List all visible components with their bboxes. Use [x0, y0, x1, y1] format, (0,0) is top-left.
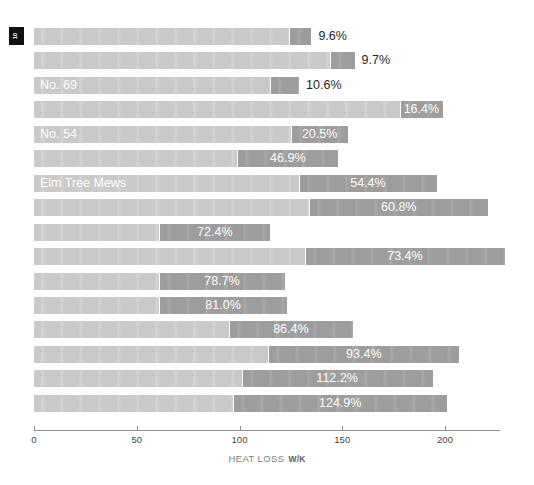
bar-segment-base	[34, 52, 330, 69]
bar-row[interactable]: 78.7%	[0, 273, 534, 290]
bar-row[interactable]: 9.6%	[0, 28, 534, 45]
x-axis-tick-mark	[445, 426, 446, 431]
x-axis-title-text: HEAT LOSS	[228, 453, 284, 464]
x-axis-tick-label: 100	[232, 434, 248, 445]
bar-row[interactable]: 73.4%	[0, 248, 534, 265]
bar-value-label: 81.0%	[159, 297, 286, 314]
x-axis-tick-mark	[137, 426, 138, 431]
bar-value-label: 72.4%	[159, 224, 270, 241]
x-axis-tick-label: 50	[131, 434, 142, 445]
bar-segment-base	[34, 346, 268, 363]
bar-value-label: 20.5%	[291, 126, 349, 143]
bar-segment-base	[34, 248, 305, 265]
bar-value-label: 54.4%	[299, 175, 437, 192]
bar-segment-extension	[271, 77, 299, 94]
bar-value-label: 112.2%	[242, 370, 433, 387]
chart-plot-area: 9.6%9.7%No. 6910.6%16.4%No. 5420.5%46.9%…	[0, 24, 534, 424]
bar-row[interactable]: No. 5420.5%	[0, 126, 534, 143]
bar-segment-extension	[331, 52, 355, 69]
x-axis-tick-mark	[342, 426, 343, 431]
bar-segment-base	[34, 395, 233, 412]
bar-value-label: 10.6%	[306, 77, 341, 94]
bar-segment-base	[34, 28, 289, 45]
bar-segment-base	[34, 199, 309, 216]
bar-value-label: 93.4%	[268, 346, 459, 363]
bar-value-label: 73.4%	[305, 248, 504, 265]
x-axis-title: HEAT LOSSW/K	[0, 453, 534, 464]
bar-segment-base	[34, 370, 242, 387]
bar-segment-base	[34, 101, 400, 118]
bar-row[interactable]: No. 6910.6%	[0, 77, 534, 94]
bar-row[interactable]: 46.9%	[0, 150, 534, 167]
x-axis-units: W/K	[288, 454, 305, 464]
bar-value-label: 124.9%	[233, 395, 447, 412]
bar-row[interactable]: 72.4%	[0, 224, 534, 241]
bar-value-label: 60.8%	[309, 199, 488, 216]
x-axis-tick-label: 200	[437, 434, 453, 445]
x-axis-tick-mark	[34, 426, 35, 431]
bar-segment-base	[34, 126, 291, 143]
bar-segment-base	[34, 175, 299, 192]
bar-row[interactable]: 124.9%	[0, 395, 534, 412]
bar-row[interactable]: Elm Tree Mews54.4%	[0, 175, 534, 192]
bar-segment-base	[34, 321, 229, 338]
x-axis-tick-label: 0	[31, 434, 36, 445]
bar-segment-base	[34, 297, 159, 314]
x-axis: 050100150200 HEAT LOSSW/K	[0, 430, 534, 485]
bar-segment-base	[34, 77, 270, 94]
x-axis-line	[34, 430, 500, 431]
bar-row[interactable]: 9.7%	[0, 52, 534, 69]
bar-value-label: 9.7%	[362, 52, 391, 69]
bar-segment-base	[34, 150, 237, 167]
x-axis-tick-mark	[240, 426, 241, 431]
x-axis-tick-label: 150	[334, 434, 350, 445]
heat-loss-chart: 10 9.6%9.7%No. 6910.6%16.4%No. 5420.5%46…	[0, 0, 534, 485]
bar-value-label: 16.4%	[400, 101, 443, 118]
bar-value-label: 78.7%	[159, 273, 284, 290]
bar-row[interactable]: 16.4%	[0, 101, 534, 118]
bar-value-label: 46.9%	[237, 150, 338, 167]
bar-row[interactable]: 112.2%	[0, 370, 534, 387]
bar-segment-extension	[290, 28, 312, 45]
bar-row[interactable]: 86.4%	[0, 321, 534, 338]
bar-value-label: 86.4%	[229, 321, 352, 338]
bar-value-label: 9.6%	[318, 28, 347, 45]
bar-row[interactable]: 60.8%	[0, 199, 534, 216]
bar-segment-base	[34, 273, 159, 290]
bar-row[interactable]: 93.4%	[0, 346, 534, 363]
bar-segment-base	[34, 224, 159, 241]
bar-row[interactable]: 81.0%	[0, 297, 534, 314]
